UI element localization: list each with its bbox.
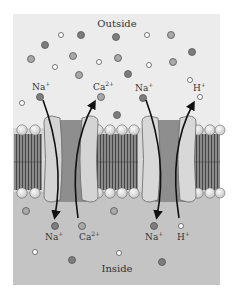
lipid-bilayer-middle xyxy=(93,125,139,198)
lipid-bilayer-left xyxy=(14,125,42,198)
inside-label: Inside xyxy=(101,263,132,274)
outside-label: Outside xyxy=(97,18,136,29)
lipid-bilayer-right xyxy=(193,125,225,198)
membrane-transport-diagram: Outside Inside Na+ Ca2+ Na+ H+ xyxy=(0,0,233,300)
